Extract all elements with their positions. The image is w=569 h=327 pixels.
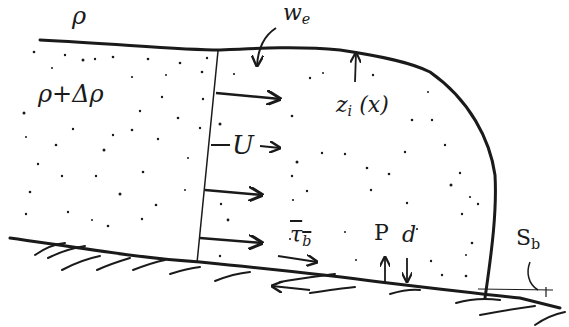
label-ambient-density: ρ <box>72 4 86 28</box>
label-current-density: ρ+Δρ <box>38 82 104 106</box>
horizontal-reference <box>478 289 553 290</box>
bed-stress-subscript: b <box>302 233 311 249</box>
label-bed-stress: τb <box>290 224 311 249</box>
interface-line <box>40 40 495 298</box>
bed-stress-arrow-fwd <box>278 256 317 262</box>
bed-line <box>10 238 560 308</box>
bed-stress-symbol: τ <box>290 222 302 247</box>
diagram-canvas: ρ we ρ+Δρ U zi (x) τb P d Sb <box>0 0 569 327</box>
entrainment-symbol: w <box>283 0 302 25</box>
slope-angle-arc <box>528 262 538 290</box>
label-velocity: U <box>232 132 254 158</box>
label-entrainment: we <box>283 2 310 27</box>
label-interface-height: zi (x) <box>336 94 389 119</box>
label-pickup: P <box>374 222 389 244</box>
diagram-drawing <box>0 0 569 327</box>
entrainment-subscript: e <box>302 11 310 27</box>
bed-stress-arrow-back <box>272 286 310 290</box>
label-slope: Sb <box>516 227 540 252</box>
slope-subscript: b <box>531 236 540 252</box>
interface-height-arrow <box>355 53 356 82</box>
interface-height-subscript: i <box>348 103 353 119</box>
slope-symbol: S <box>516 225 531 250</box>
profile-axis <box>197 51 218 263</box>
interface-height-argument: (x) <box>359 92 389 117</box>
label-deposition: d <box>402 224 416 246</box>
interface-height-symbol: z <box>336 92 348 117</box>
